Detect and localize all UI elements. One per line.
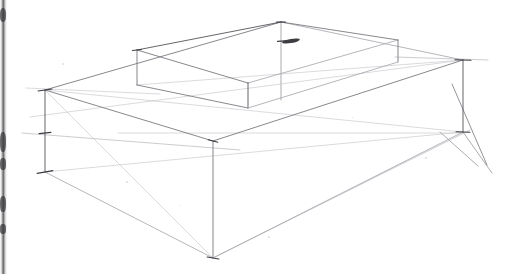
receding-guide-left-to-right-vp [45, 90, 463, 132]
graphite-accent-group [282, 38, 300, 45]
left-horizon-guide [22, 133, 240, 150]
tick-slab-mid-left [39, 132, 51, 133]
box-top-back-right-edge [281, 22, 398, 40]
slab-bottom-front-left-edge [45, 172, 213, 258]
graphite-smudge-apex [282, 38, 300, 45]
box-top-front-right-edge [248, 40, 398, 83]
page-edge-blotch-1 [0, 132, 6, 152]
slab-top-front-right-edge [213, 60, 463, 141]
box-top-front-left-edge [137, 50, 248, 83]
sketch-canvas [0, 0, 509, 274]
page-edge-blotch-0 [0, 8, 6, 22]
right-horizon-guide [395, 57, 488, 60]
construction-lines-group [22, 22, 492, 258]
box-bottom-front-right-edge [248, 62, 398, 108]
slab-top-back-left-edge [45, 22, 281, 90]
upper-box-volume-group [137, 22, 398, 108]
slab-bottom-front-right-edge [213, 132, 463, 258]
tick-slab-top-right [455, 60, 471, 61]
box-top-back-left-edge [137, 22, 281, 50]
perspective-sketch-drawing [0, 0, 509, 274]
tick-box-top-left [133, 50, 142, 51]
page-edge-blotch-3 [0, 196, 6, 212]
slab-top-back-right-edge [281, 22, 463, 60]
vp-convergence-inner [440, 132, 478, 166]
receding-guide-upper-left-to-vp [30, 60, 463, 117]
vp-convergence-lower [463, 132, 492, 173]
page-edge-blotch-2 [0, 158, 6, 170]
receding-guide-lower-left [45, 132, 463, 172]
page-edge-blotch-4 [0, 224, 6, 234]
vp-convergence-upper [452, 84, 487, 165]
